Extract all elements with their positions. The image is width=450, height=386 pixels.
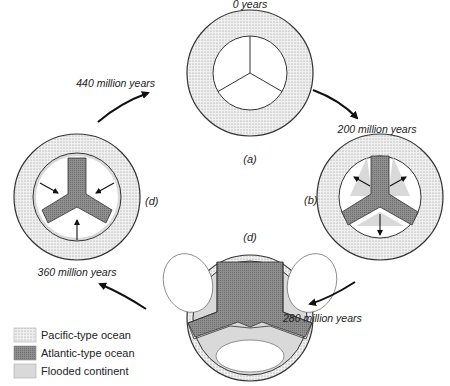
continent-fragment [216, 340, 284, 372]
legend-label-atlantic: Atlantic-type ocean [41, 347, 135, 359]
time-label-b: 200 million years [337, 123, 418, 135]
panel-label-c: (d) [243, 231, 257, 243]
time-label-d: 360 million years [38, 266, 118, 278]
time-label-a: 0 years [233, 0, 268, 10]
legend-swatch-pacific [14, 328, 36, 342]
cycle-arrow-a-to-b [313, 90, 357, 118]
legend: Pacific-type ocean Atlantic-type ocean F… [14, 328, 135, 378]
panel-label-b: (b) [304, 194, 318, 206]
panel-label-a: (a) [243, 153, 257, 165]
stage-c: (d) [155, 231, 345, 381]
cycle-label: 440 million years [76, 77, 156, 89]
stage-b: 200 million years (b) [304, 123, 443, 260]
legend-label-pacific: Pacific-type ocean [41, 329, 131, 341]
cycle-arrow-c-to-d [100, 284, 146, 309]
wilson-cycle-diagram: 0 years (a) 200 million years (b) (d) [0, 0, 450, 386]
stage-d: (d) [14, 134, 159, 260]
legend-swatch-flooded [14, 364, 36, 378]
legend-label-flooded: Flooded continent [41, 365, 128, 377]
cycle-arrow-d-to-a [98, 93, 148, 122]
time-label-c: 280 million years [282, 312, 363, 324]
stage-a: 0 years (a) [187, 0, 313, 165]
legend-swatch-atlantic [14, 346, 36, 360]
panel-label-d: (d) [145, 195, 159, 207]
